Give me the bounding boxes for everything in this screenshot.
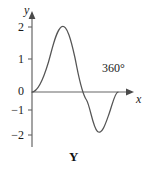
- y-tick-label-1: 1: [10, 53, 24, 65]
- y-tick-label-minus-2: −2: [4, 129, 24, 141]
- figure-caption: Y: [69, 150, 78, 163]
- y-tick-label-0: 0: [10, 85, 24, 97]
- y-tick-label-2: 2: [10, 21, 24, 33]
- sine-curve: [32, 26, 118, 132]
- y-axis-label: y: [24, 4, 29, 16]
- x-axis-arrowhead: [126, 89, 134, 96]
- y-tick-label-minus-1: −1: [4, 104, 24, 116]
- graph-figure: y x 2 1 0 −1 −2 360° Y: [0, 0, 152, 171]
- x-axis-label: x: [136, 93, 141, 105]
- degree-annotation-360: 360°: [102, 62, 125, 74]
- y-axis-arrowhead: [29, 11, 36, 19]
